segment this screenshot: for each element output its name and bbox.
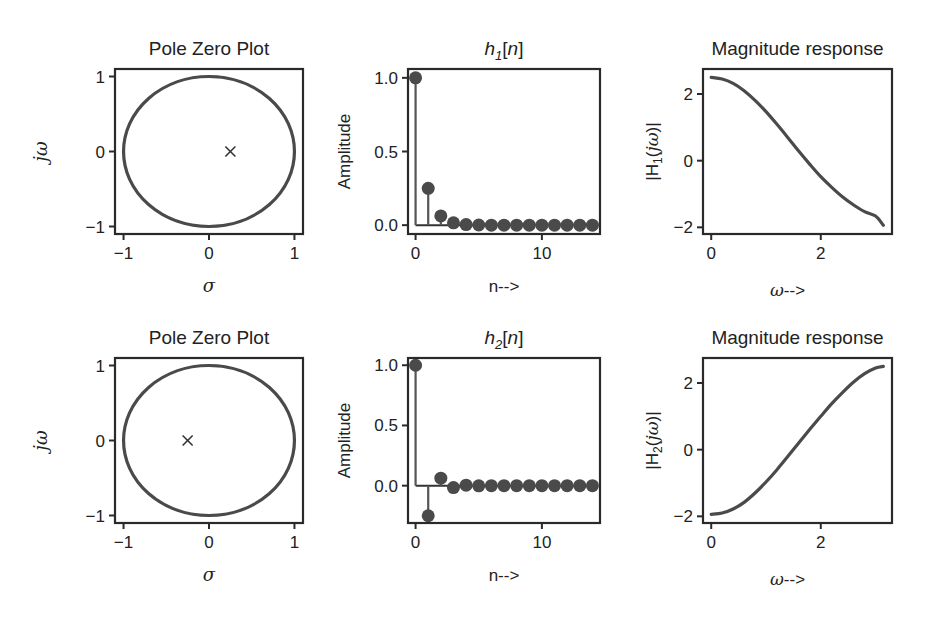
chart-title: h2[n] bbox=[485, 327, 524, 352]
x-axis-label: ω--> bbox=[770, 569, 805, 589]
subplot-impulse-response-2: h2[n]0100.00.51.0n-->Amplitude bbox=[335, 327, 600, 585]
stem-marker bbox=[422, 182, 435, 195]
magnitude-curve bbox=[711, 366, 883, 514]
y-tick-label: −1 bbox=[86, 218, 105, 237]
x-tick-label: 0 bbox=[411, 533, 420, 552]
subplot-magnitude-response-2: Magnitude response02−202ω-->|H2(jω)| bbox=[642, 327, 892, 589]
stem-marker bbox=[523, 219, 536, 232]
axes-frame bbox=[408, 358, 600, 523]
stem-marker bbox=[485, 479, 498, 492]
y-tick-label: 1.0 bbox=[374, 356, 398, 375]
stem-marker bbox=[523, 479, 536, 492]
y-tick-label: 0.0 bbox=[374, 216, 398, 235]
stem-marker bbox=[409, 71, 422, 84]
x-axis-label: n--> bbox=[489, 277, 520, 296]
plot-area bbox=[409, 71, 599, 231]
stem-marker bbox=[548, 219, 561, 232]
y-axis-label: jω bbox=[30, 141, 51, 166]
y-tick-label: 0.5 bbox=[374, 416, 398, 435]
x-tick-label: 10 bbox=[532, 533, 551, 552]
plot-area bbox=[124, 77, 295, 227]
y-tick-label: −1 bbox=[86, 507, 105, 526]
stem-marker bbox=[510, 219, 523, 232]
stem-marker bbox=[561, 479, 574, 492]
y-tick-label: 0.0 bbox=[374, 477, 398, 496]
stem-marker bbox=[535, 219, 548, 232]
stem-marker bbox=[586, 219, 599, 232]
plot-area bbox=[124, 366, 295, 516]
stem-marker bbox=[573, 479, 586, 492]
pole-marker-icon bbox=[225, 147, 235, 157]
stem-marker bbox=[573, 219, 586, 232]
plot-area bbox=[711, 77, 883, 225]
x-tick-label: 2 bbox=[816, 533, 825, 552]
stem-marker bbox=[460, 479, 473, 492]
x-tick-label: 2 bbox=[816, 244, 825, 263]
x-tick-label: 0 bbox=[411, 244, 420, 263]
unit-circle bbox=[124, 77, 295, 227]
magnitude-curve bbox=[711, 77, 883, 225]
stem-marker bbox=[535, 479, 548, 492]
stem-marker bbox=[447, 216, 460, 229]
y-tick-label: 0 bbox=[684, 152, 693, 171]
stem-marker bbox=[561, 219, 574, 232]
stem-marker bbox=[472, 219, 485, 232]
figure: Pole Zero Plot−101−101σjω h1[n]0100.00.5… bbox=[0, 0, 934, 617]
x-tick-label: 1 bbox=[290, 244, 299, 263]
subplot-pole-zero-2: Pole Zero Plot−101−101σjω bbox=[30, 327, 303, 585]
plot-area bbox=[409, 359, 599, 523]
y-tick-label: 1.0 bbox=[374, 69, 398, 88]
x-tick-label: 1 bbox=[290, 533, 299, 552]
stem-marker bbox=[548, 479, 561, 492]
subplot-pole-zero-1: Pole Zero Plot−101−101σjω bbox=[30, 38, 303, 296]
x-tick-label: 0 bbox=[706, 244, 715, 263]
x-tick-label: −1 bbox=[114, 244, 133, 263]
y-tick-label: 1 bbox=[96, 68, 105, 87]
axes-frame bbox=[115, 358, 303, 523]
y-axis-label: Amplitude bbox=[335, 403, 354, 479]
y-tick-label: 2 bbox=[684, 85, 693, 104]
y-tick-label: 0 bbox=[96, 432, 105, 451]
chart-title: h1[n] bbox=[485, 38, 524, 63]
y-tick-label: 1 bbox=[96, 357, 105, 376]
y-tick-label: −2 bbox=[674, 218, 693, 237]
x-tick-label: 0 bbox=[706, 533, 715, 552]
stem-marker bbox=[409, 359, 422, 372]
y-tick-label: −2 bbox=[674, 507, 693, 526]
y-tick-label: 2 bbox=[684, 374, 693, 393]
chart-title: Magnitude response bbox=[711, 327, 883, 348]
y-axis-label: Amplitude bbox=[335, 114, 354, 190]
plot-area bbox=[711, 366, 883, 514]
axes-frame bbox=[408, 69, 600, 234]
x-axis-label: n--> bbox=[489, 566, 520, 585]
y-axis-label: |H2(jω)| bbox=[642, 411, 665, 469]
stem-marker bbox=[472, 479, 485, 492]
x-axis-label: σ bbox=[203, 564, 216, 585]
stem-marker bbox=[586, 479, 599, 492]
y-axis-label: |H1(jω)| bbox=[642, 122, 665, 180]
y-tick-label: 0.5 bbox=[374, 143, 398, 162]
unit-circle bbox=[124, 366, 295, 516]
x-tick-label: −1 bbox=[114, 533, 133, 552]
chart-title: Pole Zero Plot bbox=[149, 38, 270, 59]
chart-title: Pole Zero Plot bbox=[149, 327, 270, 348]
x-tick-label: 0 bbox=[204, 533, 213, 552]
y-axis-label: jω bbox=[30, 430, 51, 455]
stem-marker bbox=[498, 479, 511, 492]
y-tick-label: 0 bbox=[96, 143, 105, 162]
stem-marker bbox=[460, 218, 473, 231]
stem-marker bbox=[485, 219, 498, 232]
subplot-impulse-response-1: h1[n]0100.00.51.0n-->Amplitude bbox=[335, 38, 600, 296]
x-tick-label: 0 bbox=[204, 244, 213, 263]
stem-marker bbox=[447, 481, 460, 494]
stem-marker bbox=[510, 479, 523, 492]
axes-frame bbox=[703, 358, 892, 523]
x-tick-label: 10 bbox=[532, 244, 551, 263]
chart-title: Magnitude response bbox=[711, 38, 883, 59]
stem-marker bbox=[498, 219, 511, 232]
y-tick-label: 0 bbox=[684, 441, 693, 460]
x-axis-label: ω--> bbox=[770, 280, 805, 300]
subplot-magnitude-response-1: Magnitude response02−202ω-->|H1(jω)| bbox=[642, 38, 892, 300]
x-axis-label: σ bbox=[203, 275, 216, 296]
axes-frame bbox=[115, 69, 303, 234]
